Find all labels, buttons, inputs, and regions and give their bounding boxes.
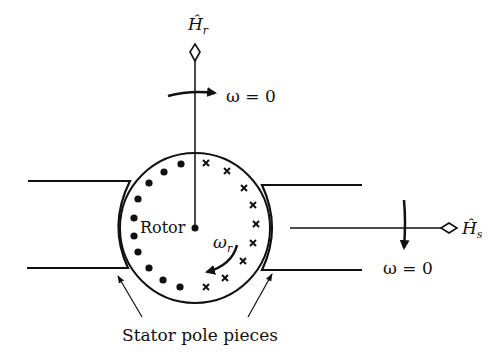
left-stator-pole [27, 181, 130, 268]
rotor-center-dot [192, 225, 199, 232]
top-rotation-arrow-icon [168, 92, 215, 96]
rotor-label: Rotor [140, 218, 186, 237]
omega-top-label: ω = 0 [226, 86, 276, 106]
rotor-field-diamond-icon [190, 44, 200, 61]
stator-field-diamond-icon [441, 223, 457, 233]
machine-diagram: Ĥr ω = 0 Rotor ωr Ĥs ω = 0 Stator pole p… [0, 0, 503, 359]
omega-right-label: ω = 0 [383, 258, 433, 278]
right-pole-leader [248, 274, 272, 317]
rotor-speed-label: ωr [213, 232, 233, 255]
left-pole-leader [118, 276, 142, 317]
right-rotation-arrow-icon [404, 200, 405, 248]
stator-field-label: Ĥs [461, 218, 483, 241]
rotor-field-label: Ĥr [187, 14, 209, 37]
stator-pole-pieces-label: Stator pole pieces [122, 325, 278, 345]
